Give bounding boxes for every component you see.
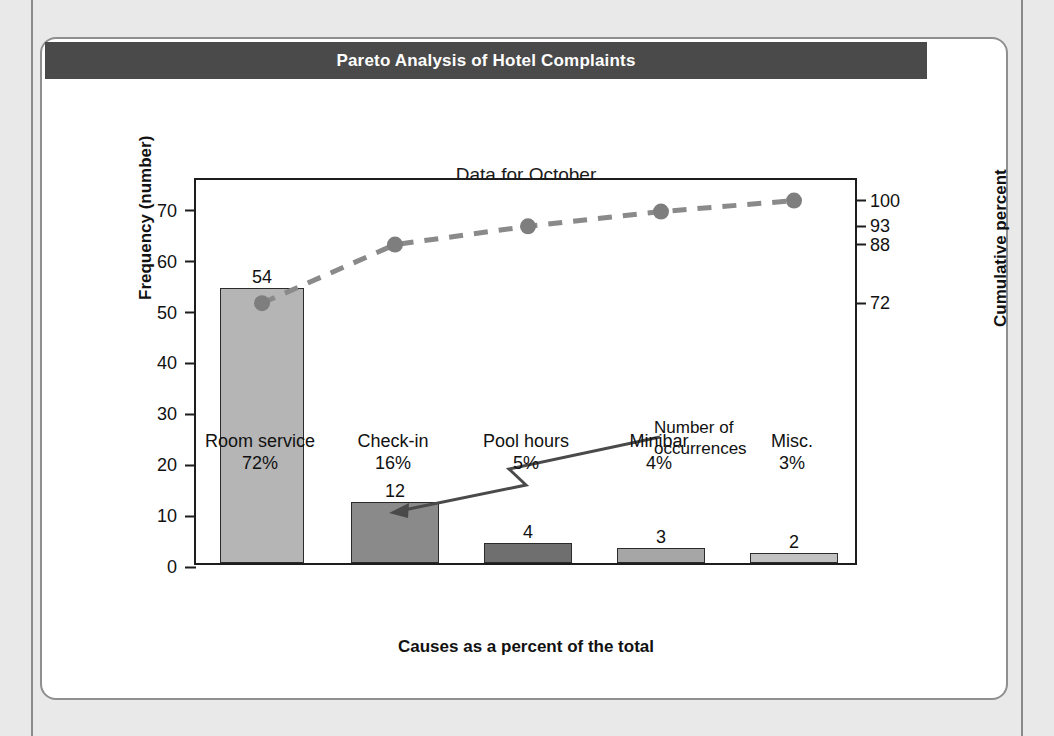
y2-tick-93: 93 xyxy=(855,216,890,237)
x-category-percent: 3% xyxy=(779,453,805,473)
y-tick-mark xyxy=(185,515,196,517)
x-category-name: Check-in xyxy=(357,431,428,451)
plot-area: Frequency (number) Cumulative percent 0 … xyxy=(194,178,857,565)
x-category-check-in: Check-in 16% xyxy=(357,431,428,475)
figure-card: Data for October Frequency (number) Cumu… xyxy=(40,37,1008,700)
y2-tick-72: 72 xyxy=(855,293,890,314)
x-axis-title: Causes as a percent of the total xyxy=(42,637,1010,657)
y-tick-mark xyxy=(185,261,196,263)
y-tick-mark xyxy=(185,210,196,212)
y-tick-50: 50 xyxy=(157,302,196,323)
y-tick-60: 60 xyxy=(157,251,196,272)
y-tick-mark xyxy=(185,312,196,314)
y-tick-mark xyxy=(185,566,196,568)
cumulative-line xyxy=(262,201,794,304)
chart-title-bar: Pareto Analysis of Hotel Complaints xyxy=(45,42,927,79)
cumulative-marker-3 xyxy=(520,218,536,234)
x-category-percent: 16% xyxy=(375,453,411,473)
y-tick-10: 10 xyxy=(157,506,196,527)
page-rule-right xyxy=(1021,0,1023,736)
y-tick-40: 40 xyxy=(157,353,196,374)
cumulative-marker-4 xyxy=(653,204,669,220)
y-tick-20: 20 xyxy=(157,455,196,476)
y-tick-30: 30 xyxy=(157,404,196,425)
chart-title: Pareto Analysis of Hotel Complaints xyxy=(336,51,635,71)
x-category-percent: 5% xyxy=(513,453,539,473)
y-axis-title: Frequency (number) xyxy=(136,136,156,300)
y-tick-mark xyxy=(185,464,196,466)
y2-axis-title: Cumulative percent xyxy=(991,169,1011,327)
y-tick-mark xyxy=(185,413,196,415)
cumulative-marker-1 xyxy=(254,295,270,311)
page-rule-left xyxy=(31,0,33,736)
y-tick-0: 0 xyxy=(167,557,196,578)
annotation-line-2: occurrences xyxy=(654,438,747,459)
cumulative-marker-2 xyxy=(387,237,403,253)
x-category-name: Pool hours xyxy=(483,431,569,451)
annotation-text: Number of occurrences xyxy=(654,417,747,460)
cumulative-marker-5 xyxy=(786,193,802,209)
x-category-misc: Misc. 3% xyxy=(771,431,813,475)
x-category-pool-hours: Pool hours 5% xyxy=(483,431,569,475)
x-category-name: Misc. xyxy=(771,431,813,451)
annotation-line-1: Number of xyxy=(654,417,747,438)
y2-tick-88: 88 xyxy=(855,234,890,255)
x-category-room-service: Room service 72% xyxy=(205,431,315,475)
cumulative-line-overlay xyxy=(196,180,859,567)
y2-tick-100: 100 xyxy=(855,190,900,211)
x-category-name: Room service xyxy=(205,431,315,451)
y-tick-mark xyxy=(185,362,196,364)
x-category-percent: 72% xyxy=(242,453,278,473)
y-tick-70: 70 xyxy=(157,200,196,221)
